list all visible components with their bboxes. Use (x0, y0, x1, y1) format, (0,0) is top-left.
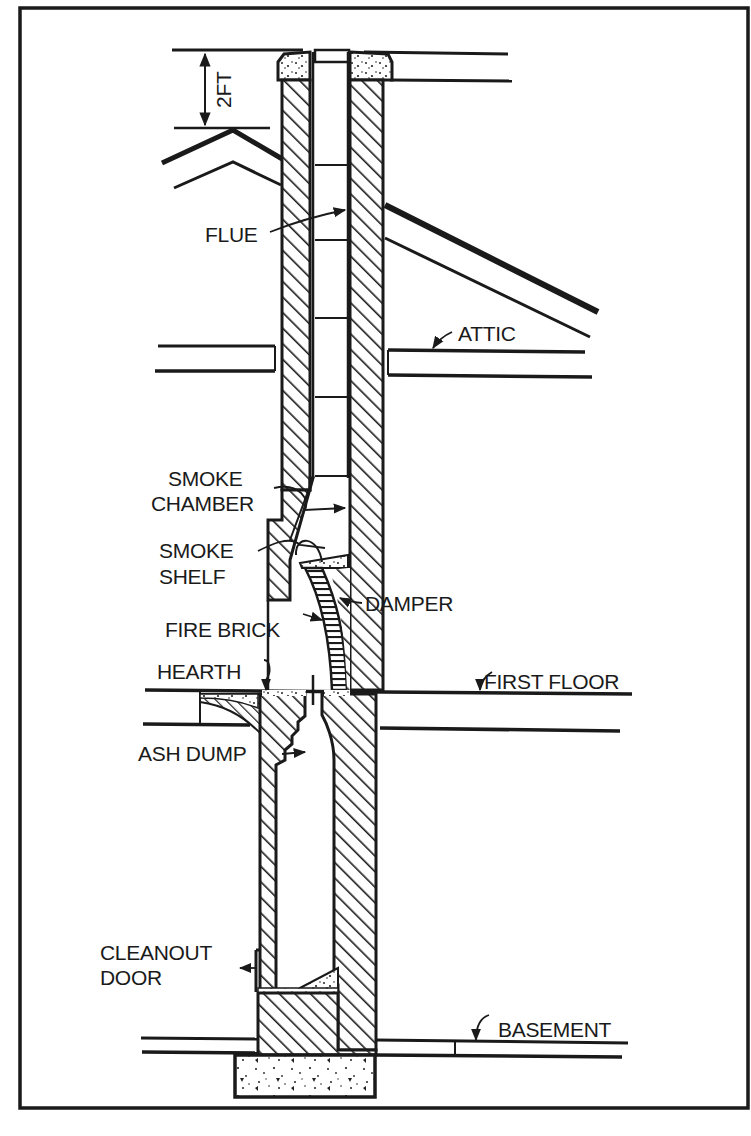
label-smoke-chamber: SMOKE CHAMBER (151, 467, 345, 515)
concrete-footing (235, 1055, 375, 1097)
svg-text:FIRE BRICK: FIRE BRICK (165, 618, 280, 641)
svg-text:DAMPER: DAMPER (365, 592, 453, 615)
label-hearth: HEARTH (157, 660, 270, 690)
svg-text:FLUE: FLUE (205, 223, 258, 246)
svg-text:BASEMENT: BASEMENT (498, 1018, 612, 1041)
label-attic: ATTIC (433, 322, 516, 348)
roof-left (162, 130, 284, 188)
label-fire-brick: FIRE BRICK (165, 614, 322, 641)
svg-text:SMOKE: SMOKE (159, 539, 234, 562)
svg-text:ATTIC: ATTIC (458, 322, 516, 345)
smoke-chamber (268, 478, 313, 600)
flue-liner (313, 52, 348, 478)
svg-text:HEARTH: HEARTH (157, 660, 241, 683)
svg-text:SHELF: SHELF (159, 565, 225, 588)
dimension-label-2ft: 2FT (212, 71, 235, 108)
svg-text:CHAMBER: CHAMBER (151, 492, 254, 515)
svg-text:ASH DUMP: ASH DUMP (138, 742, 246, 765)
chimney-cap (278, 50, 392, 80)
svg-text:CLEANOUT: CLEANOUT (100, 941, 212, 964)
chimney-cross-section-diagram: 2FT (0, 0, 751, 1136)
chimney-wall-left (282, 80, 310, 490)
label-cleanout-door: CLEANOUT DOOR (100, 941, 256, 989)
figure-caption-truncated (0, 1116, 751, 1136)
label-first-floor: FIRST FLOOR (480, 670, 619, 693)
roof-right (385, 205, 598, 337)
hearth (200, 694, 262, 735)
label-basement: BASEMENT (476, 1015, 612, 1041)
svg-text:DOOR: DOOR (100, 966, 162, 989)
svg-text:SMOKE: SMOKE (168, 467, 243, 490)
svg-text:FIRST FLOOR: FIRST FLOOR (484, 670, 619, 693)
